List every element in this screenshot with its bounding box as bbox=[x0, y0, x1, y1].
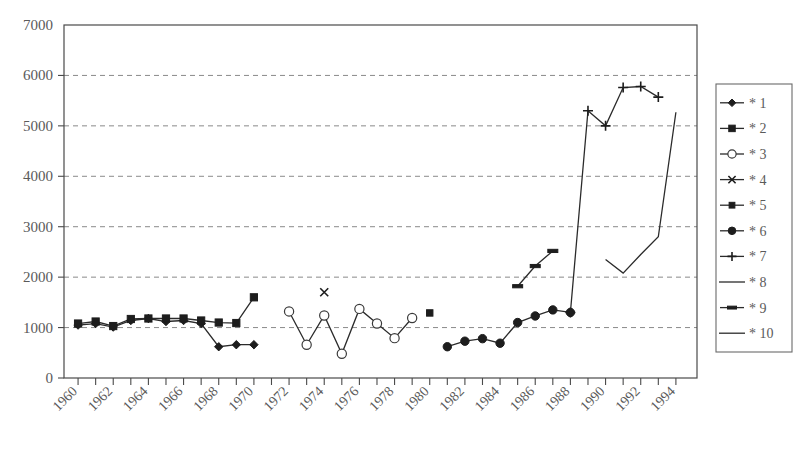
x-axis-ticks bbox=[58, 75, 676, 385]
series-line bbox=[570, 87, 658, 313]
marker-filled-circle bbox=[496, 339, 504, 347]
marker-filled-circle bbox=[461, 337, 469, 345]
legend-item-6[interactable]: * 6 bbox=[718, 218, 790, 244]
x-tick-label: 1974 bbox=[296, 384, 326, 414]
marker-square bbox=[180, 315, 187, 322]
marker-diamond bbox=[232, 341, 240, 349]
marker-filled-circle bbox=[549, 306, 557, 314]
marker-square bbox=[198, 317, 205, 324]
x-tick-label: 1966 bbox=[155, 384, 185, 414]
series-line bbox=[518, 251, 553, 286]
chart-legend[interactable]: * 1* 2* 3* 4* 5* 6* 7* 8* 9* 10 bbox=[716, 84, 792, 352]
marker-open-circle bbox=[320, 311, 329, 320]
marker-open-circle bbox=[390, 334, 399, 343]
marker-square bbox=[250, 294, 257, 301]
series-line bbox=[606, 112, 676, 273]
legend-label: * 8 bbox=[749, 275, 767, 290]
marker-open-circle bbox=[284, 307, 293, 316]
series-3 bbox=[284, 304, 416, 358]
series-10 bbox=[606, 112, 676, 273]
marker-dash bbox=[513, 285, 523, 288]
x-tick-label: 1960 bbox=[50, 384, 80, 414]
marker-filled-circle bbox=[513, 318, 521, 326]
legend-item-10[interactable]: * 10 bbox=[718, 320, 790, 346]
marker-square bbox=[92, 318, 99, 325]
marker-filled-circle bbox=[728, 227, 736, 235]
legend-label: * 1 bbox=[749, 96, 767, 111]
marker-plus bbox=[636, 82, 646, 92]
marker-square bbox=[215, 319, 222, 326]
legend-label: * 10 bbox=[749, 326, 774, 341]
x-tick-label: 1980 bbox=[401, 384, 431, 414]
legend-item-8[interactable]: * 8 bbox=[718, 269, 790, 295]
y-tick-label: 4000 bbox=[23, 168, 53, 184]
x-tick-label: 1986 bbox=[507, 384, 537, 414]
legend-item-5[interactable]: * 5 bbox=[718, 192, 790, 218]
legend-item-2[interactable]: * 2 bbox=[718, 116, 790, 142]
marker-dash bbox=[530, 264, 540, 267]
line-chart: 01000200030004000500060007000 1960196219… bbox=[0, 0, 799, 456]
marker-small-square bbox=[427, 310, 433, 316]
marker-square bbox=[110, 322, 117, 329]
marker-square bbox=[729, 125, 735, 131]
legend-item-7[interactable]: * 7 bbox=[718, 244, 790, 270]
series-7 bbox=[565, 82, 663, 318]
x-tick-label: 1978 bbox=[366, 384, 396, 414]
marker-open-circle bbox=[302, 340, 311, 349]
marker-square bbox=[145, 315, 152, 322]
x-tick-label: 1964 bbox=[120, 384, 150, 414]
series-5 bbox=[427, 310, 433, 316]
legend-item-1[interactable]: * 1 bbox=[718, 90, 790, 116]
x-tick-label: 1968 bbox=[190, 384, 220, 414]
marker-square bbox=[233, 319, 240, 326]
y-tick-label: 7000 bbox=[23, 17, 53, 33]
legend-label: * 6 bbox=[749, 224, 767, 239]
x-tick-label: 1970 bbox=[226, 384, 256, 414]
grid-layer bbox=[64, 75, 697, 327]
marker-square bbox=[127, 315, 134, 322]
y-tick-label: 1000 bbox=[23, 320, 53, 336]
legend-label: * 4 bbox=[749, 173, 767, 188]
marker-small-square bbox=[729, 202, 735, 208]
y-axis-tick-labels: 01000200030004000500060007000 bbox=[23, 17, 53, 386]
marker-dash bbox=[548, 249, 558, 252]
legend-label: * 7 bbox=[749, 249, 767, 264]
x-tick-label: 1994 bbox=[648, 384, 678, 414]
x-tick-label: 1992 bbox=[612, 384, 642, 414]
legend-item-3[interactable]: * 3 bbox=[718, 141, 790, 167]
series-6 bbox=[443, 306, 574, 351]
marker-square bbox=[74, 320, 81, 327]
x-tick-label: 1976 bbox=[331, 384, 361, 414]
y-tick-label: 6000 bbox=[23, 67, 53, 83]
legend-label: * 5 bbox=[749, 198, 767, 213]
marker-plus bbox=[565, 307, 575, 317]
legend-item-4[interactable]: * 4 bbox=[718, 167, 790, 193]
legend-label: * 2 bbox=[749, 121, 767, 136]
legend-label: * 9 bbox=[749, 301, 767, 316]
marker-filled-circle bbox=[443, 343, 451, 351]
marker-open-circle bbox=[355, 304, 364, 313]
marker-open-circle bbox=[728, 150, 736, 158]
legend-item-9[interactable]: * 9 bbox=[718, 295, 790, 321]
series-9 bbox=[513, 249, 558, 288]
y-tick-label: 5000 bbox=[23, 118, 53, 134]
marker-plus bbox=[618, 83, 628, 93]
marker-x-cross bbox=[320, 288, 328, 296]
x-tick-label: 1990 bbox=[577, 384, 607, 414]
x-tick-label: 1982 bbox=[437, 384, 467, 414]
x-axis-tick-labels: 1960196219641966196819701972197419761978… bbox=[50, 384, 678, 414]
marker-filled-circle bbox=[531, 312, 539, 320]
x-tick-label: 1988 bbox=[542, 384, 572, 414]
x-tick-label: 1984 bbox=[472, 384, 502, 414]
chart-page: 01000200030004000500060007000 1960196219… bbox=[0, 0, 799, 456]
y-tick-label: 0 bbox=[46, 370, 54, 386]
x-tick-label: 1962 bbox=[85, 384, 115, 414]
data-series-layer bbox=[74, 82, 676, 359]
y-tick-label: 2000 bbox=[23, 269, 53, 285]
marker-open-circle bbox=[337, 349, 346, 358]
marker-diamond bbox=[250, 341, 258, 349]
marker-open-circle bbox=[372, 319, 381, 328]
x-tick-label: 1972 bbox=[261, 384, 291, 414]
marker-open-circle bbox=[408, 313, 417, 322]
marker-square bbox=[162, 315, 169, 322]
